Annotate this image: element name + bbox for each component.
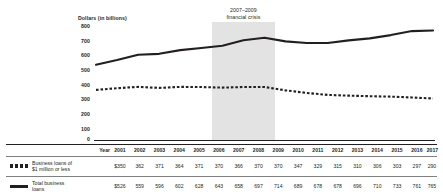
cell-small-2017: 290 [427,156,437,176]
header-2007: 2007 [229,145,249,157]
cell-total-2009: 714 [268,176,288,195]
cell-small-2003: 371 [150,156,170,176]
cell-small-2005: 371 [189,156,209,176]
header-2008: 2008 [249,145,269,157]
cell-total-2013: 696 [348,176,368,195]
line-total-business-loans [96,31,433,65]
table-row-small-loans: Business loans of $1 million or less $35… [6,156,437,176]
cell-small-2016: 297 [407,156,427,176]
header-spacer-label [32,145,80,157]
cell-small-2007: 366 [229,156,249,176]
legend-label-small-loans: Business loans of $1 million or less [32,156,110,176]
header-2016: 2016 [407,145,427,157]
cell-total-2003: 596 [150,176,170,195]
header-2013: 2013 [348,145,368,157]
chart-figure: Dollars (in billions) 2007–2009 financia… [0,0,443,195]
chart-plot-region: Dollars (in billions) 2007–2009 financia… [0,0,443,143]
cell-total-2015: 733 [387,176,407,195]
header-2002: 2002 [130,145,150,157]
cell-small-2006: 370 [209,156,229,176]
cell-total-2006: 643 [209,176,229,195]
header-year: Year [80,145,110,157]
header-2011: 2011 [308,145,328,157]
cell-total-2005: 628 [189,176,209,195]
cell-total-2007: 658 [229,176,249,195]
header-2004: 2004 [169,145,189,157]
table-row-total-loans: Total business loans $526 559 596 602 62… [6,176,437,195]
data-table-region: Year 2001 2002 2003 2004 2005 2006 2007 … [6,144,437,195]
cell-total-2016: 761 [407,176,427,195]
legend-label-total-loans: Total business loans [32,176,110,195]
cell-total-2010: 689 [288,176,308,195]
cell-small-2015: 303 [387,156,407,176]
cell-total-2002: 559 [130,176,150,195]
data-table: Year 2001 2002 2003 2004 2005 2006 2007 … [6,144,437,195]
header-2001: 2001 [110,145,130,157]
cell-small-2004: 364 [169,156,189,176]
header-2012: 2012 [328,145,348,157]
cell-small-2013: 310 [348,156,368,176]
header-2005: 2005 [189,145,209,157]
header-2017: 2017 [427,145,437,157]
line-small-business-loans [96,87,433,99]
cell-small-2001: $350 [110,156,130,176]
cell-total-2014: 710 [367,176,387,195]
cell-small-2009: 370 [268,156,288,176]
cell-small-2002: 362 [130,156,150,176]
header-spacer-swatch [6,145,32,157]
header-2006: 2006 [209,145,229,157]
series-lines [0,0,443,143]
legend-swatch-dotted [6,156,32,176]
cell-total-2001: $526 [110,176,130,195]
cell-total-2008: 697 [249,176,269,195]
header-2009: 2009 [268,145,288,157]
cell-total-2011: 678 [308,176,328,195]
header-2014: 2014 [367,145,387,157]
legend-label-total-loans-line2: loans [32,186,110,192]
table-header-row: Year 2001 2002 2003 2004 2005 2006 2007 … [6,145,437,157]
header-2003: 2003 [150,145,170,157]
cell-small-2010: 347 [288,156,308,176]
header-2010: 2010 [288,145,308,157]
cell-total-2017: 765 [427,176,437,195]
header-2015: 2015 [387,145,407,157]
cell-total-2004: 602 [169,176,189,195]
cell-small-2008: 370 [249,156,269,176]
cell-small-2011: 329 [308,156,328,176]
legend-swatch-solid [6,176,32,195]
legend-label-small-loans-line2: $1 million or less [32,166,110,172]
cell-total-2012: 678 [328,176,348,195]
cell-small-2012: 315 [328,156,348,176]
cell-small-2014: 306 [367,156,387,176]
